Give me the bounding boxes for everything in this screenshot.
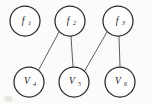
node-subscript-f3: 3 [121, 19, 125, 26]
edge-f3-v6 [119, 36, 120, 67]
node-circle-f1 [10, 6, 40, 36]
node-subscript-v4: 4 [33, 80, 36, 87]
edge-f3-v5 [84, 32, 107, 72]
edge-f2-v5 [71, 36, 73, 67]
node-v6[interactable]: V 6 [105, 67, 135, 97]
node-v4[interactable]: V 4 [14, 67, 44, 97]
node-f2[interactable]: f 2 [55, 6, 85, 36]
node-subscript-v5: 5 [78, 80, 81, 87]
edge-group [38, 32, 120, 72]
node-f1[interactable]: f 1 [10, 6, 40, 36]
edge-f2-v4 [38, 32, 59, 71]
scan-artifact [4, 96, 13, 102]
node-subscript-f2: 2 [73, 19, 76, 26]
node-f3[interactable]: f 3 [103, 6, 133, 36]
diagram-canvas: f 1 f 2 f 3 V 4 V 5 V 6 [0, 0, 152, 104]
node-subscript-f1: 1 [28, 19, 31, 26]
factor-graph: f 1 f 2 f 3 V 4 V 5 V 6 [0, 0, 152, 104]
node-circle-f2 [55, 6, 85, 36]
node-v5[interactable]: V 5 [59, 67, 89, 97]
